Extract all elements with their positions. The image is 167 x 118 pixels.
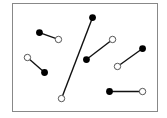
open-dot (109, 36, 115, 42)
filled-dot (41, 69, 48, 76)
filled-dot (139, 45, 146, 52)
open-dot (139, 88, 145, 94)
open-dot (24, 54, 30, 60)
filled-dot (36, 29, 43, 36)
open-dot (58, 95, 64, 101)
open-dot (55, 36, 61, 42)
dumbbell-diagram (0, 0, 167, 118)
filled-dot (89, 14, 96, 21)
filled-dot (106, 88, 113, 95)
filled-dot (83, 56, 90, 63)
open-dot (114, 63, 120, 69)
